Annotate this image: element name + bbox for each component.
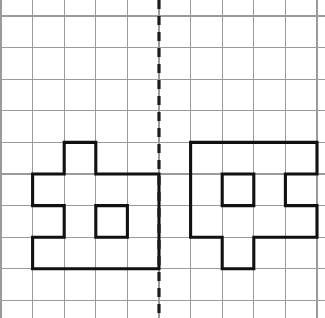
- grid-and-figures-svg: [0, 0, 325, 318]
- worksheet-canvas: [0, 0, 325, 318]
